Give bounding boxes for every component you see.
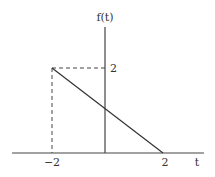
function-plot: f(t) 2 −2 2 t — [0, 0, 215, 177]
x-tick-label-neg2: −2 — [44, 156, 60, 169]
x-tick-label-2: 2 — [162, 156, 169, 169]
function-line — [52, 68, 163, 153]
y-tick-label-2: 2 — [110, 62, 117, 75]
y-axis-label: f(t) — [96, 11, 113, 24]
x-axis-label: t — [195, 156, 200, 169]
